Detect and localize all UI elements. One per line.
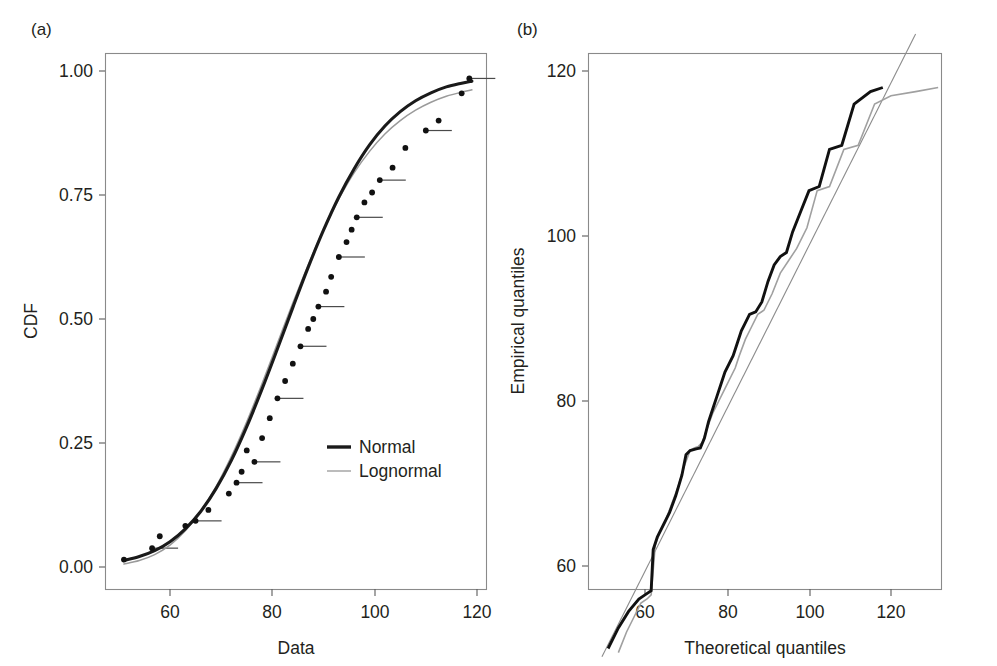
ecdf-data-point — [369, 190, 375, 196]
panel-a-x-axis-title: Data — [278, 638, 315, 658]
ecdf-data-point — [205, 507, 211, 513]
figure-container: (a) 1.00 0.75 0.50 0.25 0.00 — [0, 0, 997, 666]
y-tick-label: 1.00 — [59, 61, 93, 81]
ecdf-data-point — [244, 448, 250, 454]
panel-b-frame — [589, 54, 942, 590]
panel-b: (b) 120 100 80 60 — [500, 0, 997, 666]
panel-a-label: (a) — [31, 20, 52, 40]
ecdf-data-point — [193, 518, 199, 524]
ecdf-data-point — [149, 545, 155, 551]
y-tick-label: 100 — [547, 226, 576, 246]
panel-b-x-tick-labels: 60 80 100 120 — [635, 602, 906, 622]
panel-b-label: (b) — [517, 20, 538, 40]
ecdf-data-point — [275, 395, 281, 401]
ecdf-data-point — [402, 145, 408, 151]
panel-a-y-tick-labels: 1.00 0.75 0.50 0.25 0.00 — [59, 61, 93, 577]
y-tick-label: 0.75 — [59, 185, 93, 205]
ecdf-data-point — [436, 118, 442, 124]
ecdf-data-point — [182, 523, 188, 529]
ecdf-data-point — [328, 274, 334, 280]
ecdf-data-point — [344, 239, 350, 245]
ecdf-data-point — [423, 128, 429, 134]
panel-a-lognormal-curve — [124, 90, 472, 564]
ecdf-data-point — [390, 165, 396, 171]
panel-a-ecdf-steps — [152, 78, 495, 548]
x-tick-label: 60 — [160, 602, 180, 622]
ecdf-data-point — [377, 177, 383, 183]
legend-label-normal: Normal — [359, 437, 415, 457]
ecdf-data-point — [226, 491, 232, 497]
legend: Normal Lognormal — [327, 437, 442, 481]
panel-a-frame — [106, 54, 487, 590]
ecdf-data-point — [336, 254, 342, 260]
panel-a-y-axis-title: CDF — [21, 303, 41, 339]
panel-b-normal-qq — [608, 88, 883, 649]
panel-b-x-axis-title: Theoretical quantiles — [684, 638, 846, 658]
panel-a-y-ticks — [99, 71, 105, 567]
panel-b-lognormal-qq — [618, 88, 938, 653]
ecdf-data-point — [349, 227, 355, 233]
ecdf-data-point — [298, 343, 304, 349]
x-tick-label: 80 — [718, 602, 738, 622]
ecdf-data-point — [234, 480, 240, 486]
x-tick-label: 100 — [795, 602, 824, 622]
panel-b-y-axis-title: Empirical quantiles — [508, 247, 528, 394]
ecdf-data-point — [466, 76, 472, 82]
ecdf-data-point — [290, 361, 296, 367]
ecdf-data-point — [157, 533, 163, 539]
panel-b-y-tick-labels: 120 100 80 60 — [547, 61, 576, 576]
y-tick-label: 0.50 — [59, 309, 93, 329]
ecdf-data-point — [252, 459, 258, 465]
ecdf-data-point — [305, 326, 311, 332]
ecdf-data-point — [362, 200, 368, 206]
y-tick-label: 80 — [557, 391, 577, 411]
panel-a: (a) 1.00 0.75 0.50 0.25 0.00 — [0, 0, 500, 666]
panel-a-plot: 1.00 0.75 0.50 0.25 0.00 60 80 100 120 D… — [0, 0, 500, 666]
panel-b-reference-line — [602, 34, 916, 657]
y-tick-label: 0.00 — [59, 557, 93, 577]
ecdf-data-point — [121, 557, 127, 563]
ecdf-data-point — [282, 378, 288, 384]
ecdf-data-point — [323, 289, 329, 295]
y-tick-label: 60 — [557, 556, 577, 576]
ecdf-data-point — [354, 214, 360, 220]
x-tick-label: 120 — [876, 602, 905, 622]
x-tick-label: 100 — [360, 602, 389, 622]
ecdf-data-point — [239, 469, 245, 475]
ecdf-data-point — [310, 316, 316, 322]
ecdf-data-point — [459, 90, 465, 96]
x-tick-label: 120 — [462, 602, 491, 622]
x-tick-label: 60 — [635, 602, 655, 622]
x-tick-label: 80 — [262, 602, 282, 622]
panel-a-ecdf-points — [121, 76, 472, 563]
ecdf-data-point — [259, 435, 265, 441]
panel-b-plot: 120 100 80 60 60 80 100 120 Theoretical … — [500, 0, 997, 666]
y-tick-label: 0.25 — [59, 433, 93, 453]
panel-a-normal-curve — [124, 81, 472, 560]
ecdf-data-point — [267, 415, 273, 421]
panel-b-y-ticks — [582, 71, 588, 566]
panel-a-x-tick-labels: 60 80 100 120 — [160, 602, 492, 622]
ecdf-data-point — [315, 304, 321, 310]
y-tick-label: 120 — [547, 61, 576, 81]
legend-label-lognormal: Lognormal — [359, 461, 442, 481]
